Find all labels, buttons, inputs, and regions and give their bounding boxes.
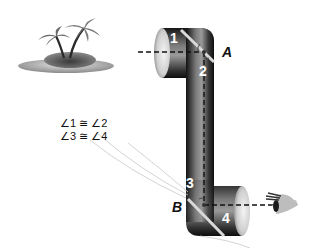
angle-4-label: 4 (222, 210, 230, 226)
point-b-marker (202, 203, 206, 207)
diagram-canvas (0, 0, 314, 248)
angle-3-label: 3 (186, 175, 194, 191)
congruence-statement-1: ∠1 ≅ ∠2 (60, 117, 107, 130)
island-icon (18, 18, 114, 73)
periscope-diagram: A B 1 2 3 4 ∠1 ≅ ∠2 ∠3 ≅ ∠4 (0, 0, 314, 248)
angle-2-label: 2 (199, 63, 207, 79)
angle-1-label: 1 (170, 30, 178, 46)
point-b-label: B (172, 199, 182, 215)
point-a-marker (202, 50, 206, 54)
periscope-tube (154, 28, 250, 236)
eye-icon (266, 193, 298, 214)
congruence-statement-2: ∠3 ≅ ∠4 (60, 130, 107, 143)
point-a-label: A (222, 44, 232, 60)
